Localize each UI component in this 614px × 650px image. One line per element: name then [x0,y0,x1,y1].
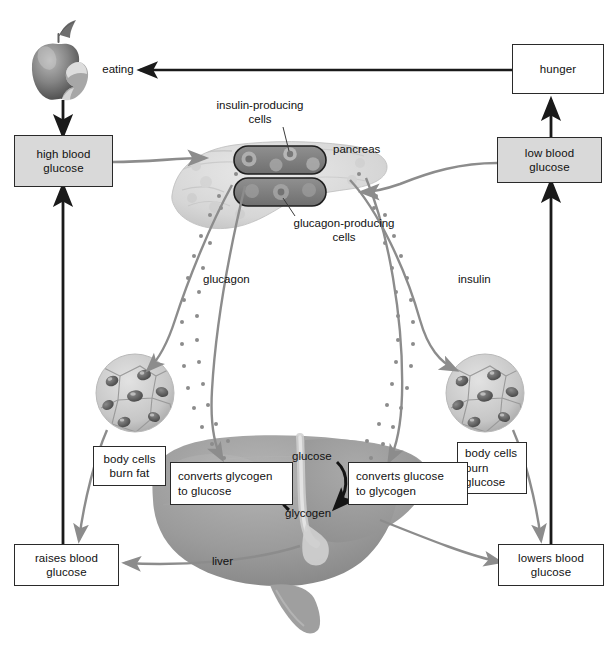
label-insulin-producing-cells: insulin-producing cells [198,98,322,127]
node-body-cells-burn-fat[interactable]: body cells burn fat [93,446,166,486]
label-pancreas: pancreas [333,142,395,156]
body-cell-cluster-left-icon [96,354,174,450]
node-converts-glucose-to-glycogen-label: converts glucose to glycogen [356,469,444,498]
node-hunger[interactable]: hunger [512,44,604,94]
node-raises-blood-glucose-label: raises blood glucose [35,551,98,580]
edge-liver-to-lowers [380,520,500,562]
insulin-producing-cells-islet [234,146,326,174]
node-hunger-label: hunger [540,62,576,76]
node-body-cells-burn-fat-label: body cells burn fat [103,452,155,481]
node-converts-glucose-to-glycogen[interactable]: converts glucose to glycogen [348,462,468,505]
label-insulin: insulin [458,272,512,286]
node-low-blood-glucose-label: low blood glucose [525,146,575,175]
node-low-blood-glucose[interactable]: low blood glucose [497,137,602,183]
body-cell-cluster-right-icon [446,354,524,450]
node-lowers-blood-glucose[interactable]: lowers blood glucose [498,544,604,586]
label-eating: eating [96,62,140,76]
diagram-canvas: hunger high blood glucose low blood gluc… [0,0,614,650]
label-glucagon: glucagon [203,272,265,286]
label-liver: liver [212,554,256,568]
apple-icon [32,20,88,101]
label-glycogen: glycogen [285,506,347,520]
glucagon-producing-cells-islet [234,178,326,206]
node-high-blood-glucose[interactable]: high blood glucose [14,135,113,187]
node-high-blood-glucose-label: high blood glucose [36,147,90,176]
node-body-cells-burn-glucose-label: body cells burn glucose [465,446,517,489]
node-converts-glycogen-to-glucose-label: converts glycogen to glucose [178,469,272,498]
label-glucose: glucose [292,449,348,463]
node-lowers-blood-glucose-label: lowers blood glucose [518,551,584,580]
label-glucagon-producing-cells: glucagon-producing cells [280,216,408,245]
node-converts-glycogen-to-glucose[interactable]: converts glycogen to glucose [170,462,293,505]
edge-insulin-to-body-cells [350,180,456,370]
node-raises-blood-glucose[interactable]: raises blood glucose [14,544,119,586]
